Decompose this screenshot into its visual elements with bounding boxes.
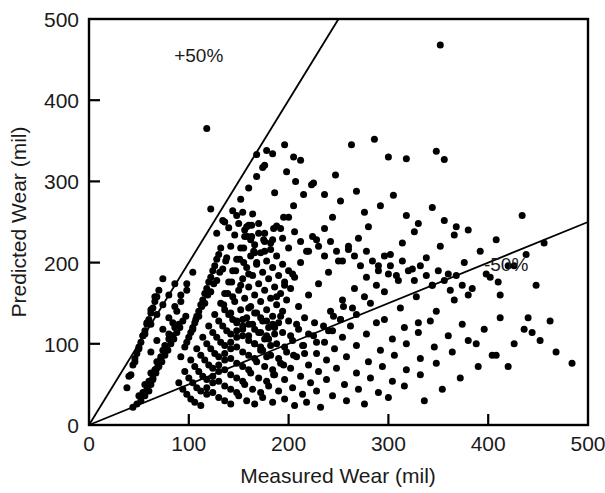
data-point [211,311,218,318]
data-point [221,350,228,357]
data-point [569,360,576,367]
data-point [269,150,276,157]
data-point [315,368,322,375]
data-point [340,303,347,310]
data-point [221,383,228,390]
x-axis-title: Measured Wear (mil) [240,464,436,487]
data-point [341,381,348,388]
data-point [495,279,502,286]
data-point [248,222,255,229]
data-point [227,331,234,338]
data-point [257,329,264,336]
data-point [281,376,288,383]
data-point [351,253,358,260]
data-point [493,236,500,243]
data-point [243,397,250,404]
data-point [323,357,330,364]
data-point [363,248,370,255]
data-point [263,257,270,264]
data-points-group [123,41,575,410]
data-point [209,365,216,372]
data-point [245,283,252,290]
data-point [250,248,257,255]
data-point [239,316,246,323]
data-point [279,261,286,268]
data-point [433,360,440,367]
data-point [219,266,226,273]
data-point [281,141,288,148]
data-point [321,253,328,260]
data-point [177,298,184,305]
data-point [369,257,376,264]
data-point [253,259,260,266]
data-point [207,206,214,213]
data-point [239,209,246,216]
data-point [473,340,480,347]
data-point [335,257,342,264]
data-point [217,244,224,251]
data-point [273,301,280,308]
data-point [343,353,350,360]
data-point [263,318,270,325]
data-point [475,363,482,370]
data-point [221,357,228,364]
data-point [355,235,362,242]
data-point [457,374,464,381]
data-point [431,344,438,351]
data-point [279,329,286,336]
data-point [281,282,288,289]
data-point [189,326,196,333]
data-point [251,340,258,347]
data-point [271,331,278,338]
data-point [321,339,328,346]
data-point [303,399,310,406]
data-point [239,348,246,355]
data-point [287,365,294,372]
data-point [239,332,246,339]
data-point [245,270,252,277]
data-point [253,173,260,180]
data-point [259,269,266,276]
data-point [357,262,364,269]
data-point [253,358,260,365]
data-point [399,257,406,264]
data-point [301,314,308,321]
data-point [183,280,190,287]
data-point [381,288,388,295]
data-point [269,236,276,243]
data-point [477,248,484,255]
data-point [233,374,240,381]
data-point [323,376,330,383]
data-point [240,259,247,266]
data-point [207,274,214,281]
data-point [283,348,290,355]
data-point [553,348,560,355]
data-point [247,370,254,377]
data-point [123,384,130,391]
data-point [213,230,220,237]
data-point [441,156,448,163]
data-point [153,358,160,365]
data-point [353,342,360,349]
data-point [300,342,307,349]
plot-canvas: 01002003004005000100200300400500 +50%-50… [0,0,605,493]
data-point [465,337,472,344]
data-point [251,309,258,316]
data-point [241,381,248,388]
data-point [353,188,360,195]
data-point [225,224,232,231]
data-point [295,303,302,310]
data-point [497,314,504,321]
data-point [267,342,274,349]
data-point [229,207,236,214]
data-point [227,355,234,362]
y-tick-label: 400 [44,89,79,112]
data-point [363,274,370,281]
data-point [271,324,278,331]
data-point [313,387,320,394]
data-point [280,214,287,221]
data-point [191,399,198,406]
data-point [469,285,476,292]
data-point [451,231,458,238]
data-point [275,272,282,279]
